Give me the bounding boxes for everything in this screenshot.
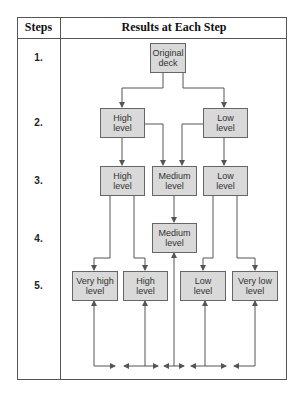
box-step3-medium: Medium level (152, 166, 197, 196)
box-step5-very-low: Very low level (232, 271, 278, 301)
box-step5-low: Low level (180, 271, 226, 301)
box-step5-very-high: Very high level (72, 271, 118, 301)
box-step2-low: Low level (203, 108, 248, 138)
box-step4-medium: Medium level (152, 223, 197, 253)
box-step5-high: High level (123, 271, 168, 301)
box-step3-low: Low level (203, 166, 248, 196)
box-step3-high: High level (100, 166, 145, 196)
box-original-deck: Original deck (150, 43, 186, 73)
box-step2-high: High level (100, 108, 145, 138)
